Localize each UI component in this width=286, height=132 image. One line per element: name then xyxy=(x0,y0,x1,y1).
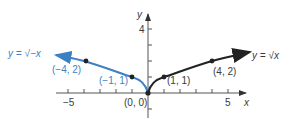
x-tick-label-5: 5 xyxy=(225,97,231,108)
x-axis-label: x xyxy=(243,97,250,108)
x-tick-label-neg5: −5 xyxy=(63,97,75,108)
y-ticks xyxy=(148,29,152,109)
label-neg1-1: (−1, 1) xyxy=(99,75,128,86)
y-tick-label-4: 4 xyxy=(139,24,145,35)
point-1-1 xyxy=(162,75,167,80)
label-sqrt-x: y = √x xyxy=(251,50,280,61)
graph-canvas: −5 5 x 4 y (0, 0) (1, 1) (4, 2) (−1, 1) … xyxy=(0,0,286,132)
y-axis-label: y xyxy=(136,9,143,20)
point-neg1-1 xyxy=(130,75,135,80)
x-axis: −5 5 x xyxy=(56,89,250,108)
label-4-2: (4, 2) xyxy=(213,66,236,77)
label-neg4-2: (−4, 2) xyxy=(52,64,81,75)
point-4-2 xyxy=(210,59,215,64)
point-origin xyxy=(145,90,150,95)
label-1-1: (1, 1) xyxy=(167,75,190,86)
point-neg4-2 xyxy=(84,59,89,64)
label-origin: (0, 0) xyxy=(124,97,147,108)
label-sqrt-neg-x: y = √−x xyxy=(7,48,42,59)
